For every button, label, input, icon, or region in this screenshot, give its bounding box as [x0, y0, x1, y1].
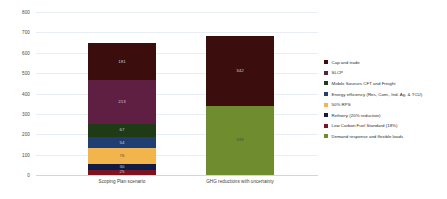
legend-item[interactable]: Refinery (20% reduction) [324, 110, 446, 121]
legend-color-swatch [324, 60, 328, 64]
stacked-bar-chart: 8007006005004003002001000 25307654672131… [0, 0, 447, 199]
gridline [36, 32, 318, 33]
legend-item-label: Energy efficiency (Res, Com., Ind. Ag. &… [332, 92, 423, 97]
bar-segment-value-label: 67 [119, 128, 124, 132]
bar-1: 2530765467213181 [88, 43, 156, 175]
legend-color-swatch [324, 81, 328, 85]
legend-color-swatch [324, 92, 328, 96]
y-axis-tick-label: 0 [4, 173, 30, 178]
gridline [36, 134, 318, 135]
y-axis-tick-label: 600 [4, 50, 30, 55]
y-axis-tick-label: 500 [4, 71, 30, 76]
legend-color-swatch [324, 113, 328, 117]
x-axis-category-label: GHG reductions with uncertainty [180, 179, 300, 184]
bar-segment: 213 [88, 80, 156, 123]
bar-segment: 67 [88, 124, 156, 138]
legend-item-label: SLCP [332, 70, 344, 75]
legend-color-swatch [324, 134, 328, 138]
legend-item-label: Refinery (20% reduction) [332, 113, 381, 118]
bar-segment: 30 [88, 164, 156, 170]
y-axis-tick-label: 300 [4, 111, 30, 116]
bar-segment: 342 [206, 36, 274, 106]
legend-color-swatch [324, 103, 328, 107]
bar-segment-value-label: 30 [119, 165, 124, 169]
legend-color-swatch [324, 124, 328, 128]
gridline [36, 73, 318, 74]
bar-segment: 54 [88, 137, 156, 148]
y-axis-tick-label: 700 [4, 30, 30, 35]
y-axis-tick-label: 100 [4, 152, 30, 157]
gridline [36, 114, 318, 115]
legend-item-label: 50% RPS [332, 102, 351, 107]
y-axis: 8007006005004003002001000 [0, 12, 34, 175]
gridline [36, 155, 318, 156]
legend-color-swatch [324, 71, 328, 75]
bar-segment-value-label: 54 [119, 141, 124, 145]
bar-segment: 76 [88, 148, 156, 163]
bar-segment-value-label: 342 [236, 69, 244, 73]
bar-segment-value-label: 76 [119, 154, 124, 158]
legend-item-label: Mobile Sources CFT and Freight [332, 81, 396, 86]
x-axis-category-label: Scoping Plan scenario [62, 179, 182, 184]
legend-item[interactable]: Low Carbon Fuel Standard (18%) [324, 121, 446, 132]
bar-segment-value-label: 25 [119, 170, 124, 174]
legend-item[interactable]: Energy efficiency (Res, Com., Ind. Ag. &… [324, 89, 446, 100]
bar-segment-value-label: 181 [118, 60, 126, 64]
legend-item-label: Low Carbon Fuel Standard (18%) [332, 123, 398, 128]
y-axis-tick-label: 400 [4, 91, 30, 96]
gridline [36, 94, 318, 95]
legend-item[interactable]: Cap and trade [324, 57, 446, 68]
legend-item[interactable]: 50% RPS [324, 99, 446, 110]
bar-segment-value-label: 339 [236, 138, 244, 142]
plot-area: 2530765467213181Scoping Plan scenario339… [36, 12, 318, 175]
y-axis-tick-label: 800 [4, 10, 30, 15]
legend-item[interactable]: SLCP [324, 68, 446, 79]
legend-item-label: Cap and trade [332, 60, 360, 65]
bar-segment: 339 [206, 106, 274, 175]
legend-item[interactable]: Demand response and flexible loads [324, 131, 446, 142]
bar-2: 339342 [206, 36, 274, 175]
bar-segment: 181 [88, 43, 156, 80]
bar-segment-value-label: 213 [118, 100, 126, 104]
bar-segment: 25 [88, 170, 156, 175]
gridline [36, 12, 318, 13]
legend-item-label: Demand response and flexible loads [332, 134, 404, 139]
gridline [36, 175, 318, 176]
legend-item[interactable]: Mobile Sources CFT and Freight [324, 78, 446, 89]
legend: Cap and tradeSLCPMobile Sources CFT and … [324, 57, 446, 142]
gridline [36, 53, 318, 54]
y-axis-tick-label: 200 [4, 132, 30, 137]
